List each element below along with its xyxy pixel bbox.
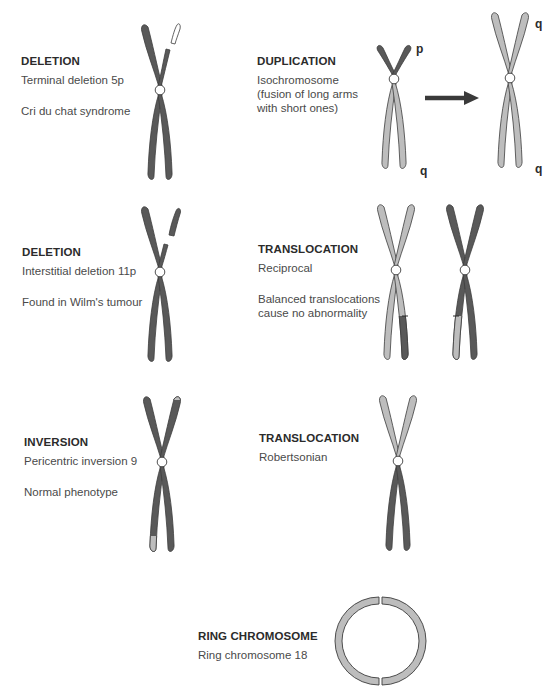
centromere: [460, 265, 470, 275]
centromere: [155, 267, 165, 277]
chromosome-pericentric-inversion: [143, 397, 180, 552]
arm-label-q: q: [535, 17, 542, 31]
centromere: [393, 456, 403, 466]
chromosome-robertsonian: [379, 396, 416, 551]
centromere: [391, 265, 401, 275]
arrow-right-icon: [425, 91, 479, 105]
chromosome-reciprocal-b: [446, 205, 483, 360]
arm-label-q: q: [535, 162, 542, 176]
centromere: [389, 74, 399, 84]
centromere: [157, 457, 167, 467]
chromosome-diagram: p q q q: [0, 0, 560, 700]
chromosome-interstitial-deletion: [141, 207, 180, 362]
chromosome-isochromosome-before: [377, 45, 411, 168]
ring-half-right: [382, 597, 426, 685]
ring-chromosome: [335, 597, 426, 685]
chromosome-terminal-deletion: [141, 24, 180, 180]
centromere: [155, 85, 165, 95]
ring-half-left: [335, 597, 379, 685]
chromosome-isochromosome-after: [491, 13, 528, 168]
chromosome-reciprocal-a: [377, 205, 414, 360]
arm-label-q: q: [420, 164, 427, 178]
centromere: [505, 73, 515, 83]
arm-label-p: p: [416, 42, 423, 56]
